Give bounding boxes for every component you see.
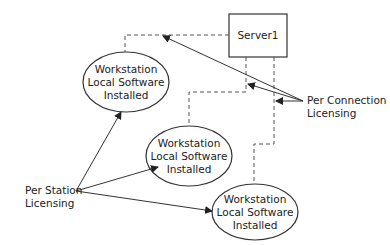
workstation-1-line3: Installed <box>83 89 169 102</box>
workstation-1-line2: Local Software <box>83 76 169 89</box>
workstation-2-line1: Workstation <box>146 137 232 150</box>
per-station-line2: Licensing <box>25 197 82 210</box>
per-connection-line1: Per Connection <box>307 94 386 107</box>
per-connection-label: Per Connection Licensing <box>307 94 386 120</box>
workstation-3-line3: Installed <box>212 219 298 232</box>
per-station-label: Per Station Licensing <box>25 184 82 210</box>
workstation-3-line2: Local Software <box>212 206 298 219</box>
workstation-label-1: Workstation Local Software Installed <box>83 63 169 102</box>
workstation-3-line1: Workstation <box>212 193 298 206</box>
workstation-2-line3: Installed <box>146 163 232 176</box>
server-label: Server1 <box>229 29 287 42</box>
per-station-line1: Per Station <box>25 184 82 197</box>
server-label-text: Server1 <box>237 29 278 41</box>
workstation-2-line2: Local Software <box>146 150 232 163</box>
workstation-label-3: Workstation Local Software Installed <box>212 193 298 232</box>
per-connection-line2: Licensing <box>307 107 386 120</box>
workstation-1-line1: Workstation <box>83 63 169 76</box>
workstation-label-2: Workstation Local Software Installed <box>146 137 232 176</box>
